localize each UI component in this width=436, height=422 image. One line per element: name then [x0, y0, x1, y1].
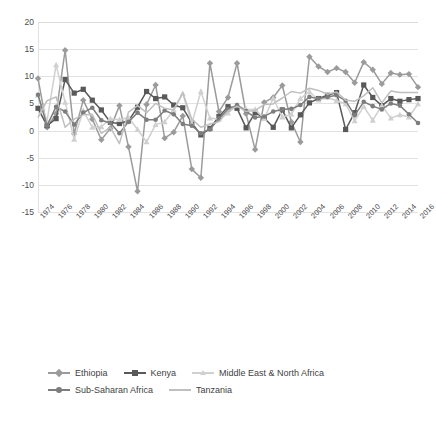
legend-label: Middle East & North Africa [219, 368, 324, 378]
data-point-marker [180, 113, 186, 119]
legend-label: Tanzania [196, 385, 232, 395]
data-point-marker [171, 112, 176, 117]
data-point-marker [271, 125, 276, 130]
data-point-marker [343, 127, 348, 132]
chart-legend: EthiopiaKenyaMiddle East & North AfricaS… [48, 368, 408, 402]
data-point-marker [407, 112, 412, 117]
data-point-marker [35, 106, 40, 111]
legend-swatch-icon [48, 385, 70, 395]
data-point-marker [325, 95, 330, 100]
data-point-marker [271, 109, 276, 114]
data-point-marker [199, 131, 204, 136]
data-point-marker [234, 60, 240, 66]
data-point-marker [397, 99, 402, 104]
data-point-marker [152, 82, 158, 88]
data-point-marker [99, 107, 104, 112]
data-point-marker [298, 112, 303, 117]
legend-item-tanzania[interactable]: Tanzania [169, 385, 232, 395]
y-axis-tick-labels: 20151050-5-10-15 [0, 22, 34, 212]
data-point-marker [389, 101, 394, 106]
x-axis-tick-labels: 1974197619781980198219841986198819901992… [38, 214, 418, 254]
y-tick-label: 5 [2, 98, 34, 108]
legend-item-kenya[interactable]: Kenya [124, 368, 177, 378]
y-tick-label: 0 [2, 126, 34, 136]
data-point-marker [153, 96, 158, 101]
data-point-marker [207, 60, 213, 66]
data-point-marker [90, 105, 95, 110]
data-point-marker [416, 121, 421, 126]
data-point-marker [316, 96, 321, 101]
x-tick-label: 2016 [418, 202, 436, 220]
data-point-marker [243, 125, 248, 130]
y-tick-label: -15 [2, 207, 34, 217]
y-tick-label: -5 [2, 153, 34, 163]
data-point-marker [90, 98, 95, 103]
data-point-marker [253, 115, 258, 120]
data-point-marker [125, 144, 131, 150]
data-point-marker [81, 87, 86, 92]
data-point-marker [388, 96, 393, 101]
data-point-marker [324, 69, 330, 75]
data-point-marker [380, 107, 385, 112]
data-point-marker [53, 116, 58, 121]
legend-item-middle-east-north-africa[interactable]: Middle East & North Africa [192, 368, 324, 378]
figure-caption [60, 410, 390, 420]
data-point-marker [370, 95, 375, 100]
data-point-marker [280, 107, 285, 112]
legend-item-sub-saharan-africa[interactable]: Sub-Saharan Africa [48, 385, 153, 395]
series-canvas [38, 22, 418, 212]
data-point-marker [53, 62, 59, 68]
data-point-marker [36, 92, 41, 97]
data-point-marker [298, 103, 303, 108]
y-tick-label: -10 [2, 180, 34, 190]
legend-swatch-icon [124, 368, 146, 378]
data-point-marker [62, 47, 68, 53]
data-point-marker [144, 117, 149, 122]
data-point-marker [108, 121, 113, 126]
data-point-marker [252, 146, 258, 152]
data-point-marker [398, 103, 403, 108]
data-point-marker [63, 109, 68, 114]
y-tick-label: 20 [2, 17, 34, 27]
data-point-marker [307, 100, 312, 105]
y-tick-label: 15 [2, 44, 34, 54]
data-point-marker [289, 107, 294, 112]
data-point-marker [72, 91, 77, 96]
data-point-marker [406, 97, 411, 102]
data-point-marker [415, 101, 421, 107]
data-point-marker [80, 97, 86, 103]
data-point-marker [71, 136, 77, 142]
data-point-marker [262, 114, 267, 119]
data-point-marker [198, 88, 204, 94]
data-point-marker [62, 99, 68, 105]
data-point-marker [135, 110, 140, 115]
data-point-marker [352, 113, 357, 118]
data-point-marker [144, 89, 149, 94]
data-point-marker [397, 112, 403, 118]
data-point-marker [370, 104, 375, 109]
data-point-marker [307, 95, 312, 100]
data-point-marker [153, 117, 158, 122]
legend-label: Sub-Saharan Africa [75, 385, 153, 395]
y-tick-label: 10 [2, 71, 34, 81]
legend-item-ethiopia[interactable]: Ethiopia [48, 368, 108, 378]
data-point-marker [45, 123, 50, 128]
data-point-marker [415, 96, 420, 101]
data-point-marker [297, 139, 303, 145]
data-point-marker [63, 77, 68, 82]
data-point-marker [162, 94, 167, 99]
legend-label: Ethiopia [75, 368, 108, 378]
data-point-marker [117, 131, 122, 136]
legend-row: EthiopiaKenyaMiddle East & North Africa [48, 368, 408, 378]
legend-label: Kenya [151, 368, 177, 378]
data-point-marker [180, 105, 185, 110]
data-point-marker [180, 122, 185, 127]
data-point-marker [134, 188, 140, 194]
legend-row: Sub-Saharan AfricaTanzania [48, 385, 408, 395]
data-point-marker [208, 127, 213, 132]
data-point-marker [35, 75, 41, 81]
data-point-marker [289, 125, 294, 130]
data-point-marker [99, 118, 104, 123]
series-ethiopia [35, 47, 421, 195]
